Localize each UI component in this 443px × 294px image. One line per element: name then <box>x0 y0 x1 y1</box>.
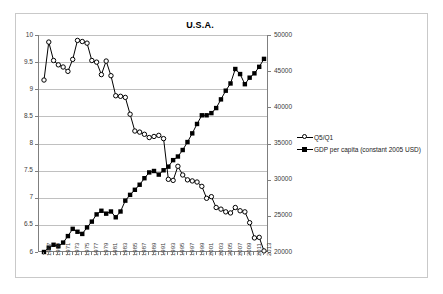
series-line <box>44 59 264 252</box>
data-point-marker <box>123 95 127 99</box>
right-axis-tick <box>268 216 271 217</box>
right-axis-tick-label: 20000 <box>274 249 308 256</box>
data-point-marker <box>80 39 84 43</box>
data-point-marker <box>176 154 180 158</box>
data-point-marker <box>75 230 79 234</box>
left-axis-tick-label: 8 <box>13 140 33 147</box>
x-axis-tick <box>129 252 130 255</box>
series-layer <box>39 35 269 252</box>
x-axis-tick <box>244 252 245 255</box>
data-point-marker <box>137 183 141 187</box>
data-point-marker <box>228 211 232 215</box>
right-axis-tick <box>268 144 271 145</box>
legend-item: GDP per capita (constant 2005 USD) <box>297 143 425 155</box>
data-point-marker <box>185 178 189 182</box>
left-axis-tick-label: 7 <box>13 194 33 201</box>
x-axis-tick <box>249 252 250 255</box>
data-point-marker <box>157 172 161 176</box>
x-axis-tick <box>234 252 235 255</box>
x-axis-tick <box>196 252 197 255</box>
data-point-marker <box>75 38 79 42</box>
x-axis-tick <box>91 252 92 255</box>
x-axis-tick <box>100 252 101 255</box>
data-point-marker <box>157 133 161 137</box>
data-point-marker <box>200 184 204 188</box>
data-point-marker <box>190 179 194 183</box>
data-point-marker <box>161 136 165 140</box>
data-point-marker <box>209 194 213 198</box>
data-point-marker <box>71 57 75 61</box>
left-axis-tick-label: 10 <box>13 32 33 39</box>
x-axis-tick <box>201 252 202 255</box>
x-axis-tick <box>239 252 240 255</box>
x-axis-tick <box>158 252 159 255</box>
left-axis-tick <box>35 144 38 145</box>
right-axis-tick-label: 40000 <box>274 104 308 111</box>
data-point-marker <box>224 89 228 93</box>
data-point-marker <box>224 210 228 214</box>
data-point-marker <box>243 210 247 214</box>
data-point-marker <box>118 94 122 98</box>
plot-area <box>38 35 268 252</box>
data-point-marker <box>142 176 146 180</box>
data-point-marker <box>66 234 70 238</box>
x-axis-tick <box>177 252 178 255</box>
data-point-marker <box>109 209 113 213</box>
data-point-marker <box>99 209 103 213</box>
left-axis-tick-label: 7.5 <box>13 167 33 174</box>
left-axis-tick-label: 8.5 <box>13 113 33 120</box>
data-point-marker <box>166 177 170 181</box>
data-point-marker <box>238 72 242 76</box>
data-point-marker <box>176 164 180 168</box>
x-axis-tick <box>220 252 221 255</box>
x-axis-tick <box>110 252 111 255</box>
x-axis-tick-label: 2013 <box>266 243 272 256</box>
data-point-marker <box>238 209 242 213</box>
x-axis-tick <box>153 252 154 255</box>
x-axis-tick <box>215 252 216 255</box>
data-point-marker <box>114 94 118 98</box>
left-axis-tick <box>35 116 38 117</box>
x-axis-tick <box>53 252 54 255</box>
right-axis-tick-label: 30000 <box>274 176 308 183</box>
x-axis-tick <box>72 252 73 255</box>
data-point-marker <box>42 78 46 82</box>
right-axis-tick-label: 50000 <box>274 32 308 39</box>
data-point-marker <box>214 106 218 110</box>
data-point-marker <box>147 170 151 174</box>
data-point-marker <box>85 41 89 45</box>
data-point-marker <box>257 65 261 69</box>
left-axis-tick <box>35 225 38 226</box>
data-point-marker <box>51 58 55 62</box>
x-axis-tick <box>62 252 63 255</box>
left-axis-tick-label: 9 <box>13 86 33 93</box>
page-title: U.S.A. <box>120 20 280 30</box>
x-axis-tick <box>115 252 116 255</box>
data-point-marker <box>80 232 84 236</box>
data-point-marker <box>171 178 175 182</box>
data-point-marker <box>247 221 251 225</box>
data-point-marker <box>214 205 218 209</box>
data-point-marker <box>161 168 165 172</box>
data-point-marker <box>94 212 98 216</box>
left-axis-tick <box>35 198 38 199</box>
data-point-marker <box>47 40 51 44</box>
x-axis-tick <box>139 252 140 255</box>
data-point-marker <box>257 235 261 239</box>
x-axis-tick <box>76 252 77 255</box>
data-point-marker <box>181 148 185 152</box>
data-point-marker <box>252 71 256 75</box>
data-point-marker <box>56 63 60 67</box>
data-point-marker <box>152 134 156 138</box>
left-axis-tick-label: 6.5 <box>13 221 33 228</box>
data-point-marker <box>137 130 141 134</box>
chart-legend: Q5/Q1 GDP per capita (constant 2005 USD) <box>297 131 425 155</box>
x-axis-tick <box>148 252 149 255</box>
x-axis-tick <box>182 252 183 255</box>
chart-figure: U.S.A. Q5/Q1 GDP per capita (constant 20… <box>0 0 443 294</box>
data-point-marker <box>228 81 232 85</box>
left-axis-tick <box>35 252 38 253</box>
right-axis-tick <box>268 180 271 181</box>
data-point-marker <box>142 132 146 136</box>
x-axis-tick <box>57 252 58 255</box>
